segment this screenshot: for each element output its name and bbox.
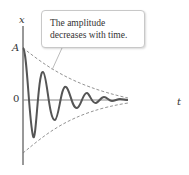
lower-envelope: [23, 103, 128, 153]
y-axis-label: x: [19, 14, 25, 25]
callout-line-2: decreases with time.: [50, 29, 144, 41]
t-axis-label: t: [177, 96, 181, 107]
amplitude-label: A: [12, 42, 19, 53]
callout-line-1: The amplitude: [50, 17, 144, 29]
callout-pointer: [52, 48, 62, 70]
zero-label: 0: [13, 93, 19, 104]
damped-curve: [23, 48, 128, 137]
amplitude-callout: The amplitude decreases with time.: [41, 10, 145, 48]
